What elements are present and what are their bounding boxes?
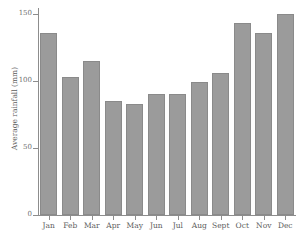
x-axis-tick xyxy=(156,216,157,220)
x-axis-tick xyxy=(285,216,286,220)
y-axis-tick-labels: 050100150 xyxy=(0,0,32,239)
bar xyxy=(255,33,272,215)
bar xyxy=(148,94,165,215)
x-axis-tick-label: Jul xyxy=(167,221,189,230)
bar xyxy=(105,101,122,215)
x-axis-tick-label: Nov xyxy=(253,221,275,230)
x-axis-line xyxy=(38,215,296,216)
x-axis-tick-label: Apr xyxy=(103,221,125,230)
y-axis-tick xyxy=(33,14,38,15)
y-axis-tick-label: 50 xyxy=(2,144,32,151)
x-axis-tick xyxy=(264,216,265,220)
y-axis-tick-label: 100 xyxy=(2,77,32,84)
y-axis-tick-label: 0 xyxy=(2,211,32,218)
y-axis-tick-label: 150 xyxy=(2,10,32,17)
x-axis-tick xyxy=(199,216,200,220)
x-axis-tick-label: Dec xyxy=(275,221,297,230)
bar xyxy=(126,104,143,215)
x-axis-tick-label: Aug xyxy=(189,221,211,230)
plot-area xyxy=(38,8,296,215)
y-axis-tick xyxy=(33,148,38,149)
bar xyxy=(191,82,208,215)
x-axis-tick-label: Jan xyxy=(38,221,60,230)
y-axis-tick xyxy=(33,215,38,216)
x-axis-tick-label: Oct xyxy=(232,221,254,230)
x-axis-tick xyxy=(49,216,50,220)
x-axis-tick xyxy=(221,216,222,220)
bar xyxy=(212,73,229,215)
bar xyxy=(277,14,294,215)
bar-chart: Average rainfall (mm) 050100150 JanFebMa… xyxy=(0,0,303,239)
x-axis-tick-label: Mar xyxy=(81,221,103,230)
x-axis-tick xyxy=(70,216,71,220)
bar xyxy=(234,23,251,215)
x-axis-tick xyxy=(92,216,93,220)
x-axis-tick-label: Feb xyxy=(60,221,82,230)
x-axis-tick xyxy=(135,216,136,220)
bar xyxy=(40,33,57,215)
bar xyxy=(83,61,100,215)
bar xyxy=(169,94,186,215)
x-axis-tick xyxy=(178,216,179,220)
x-axis-tick-label: May xyxy=(124,221,146,230)
x-axis-tick xyxy=(113,216,114,220)
x-axis-tick xyxy=(242,216,243,220)
bar xyxy=(62,77,79,215)
x-axis-tick-label: Jun xyxy=(146,221,168,230)
y-axis-tick xyxy=(33,81,38,82)
x-axis-tick-label: Sept xyxy=(210,221,232,230)
